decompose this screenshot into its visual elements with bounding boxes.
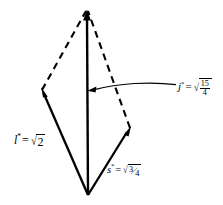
vector-diagram-figure: l*=√2 s*=√3⁄4 j*=√154	[0, 0, 223, 205]
s-denominator: 4	[135, 169, 139, 178]
j-numerator: 15	[200, 80, 210, 88]
s-radical: √3⁄4	[122, 164, 141, 177]
j-denominator: 4	[200, 88, 210, 97]
s-vector-arrowhead	[124, 126, 131, 137]
radical-sign-icon: √	[194, 82, 199, 93]
radical-sign-icon: √	[123, 165, 128, 176]
j-radicand: 154	[199, 78, 212, 98]
s-fraction: 3⁄4	[129, 166, 139, 176]
s-radicand: 3⁄4	[128, 164, 141, 177]
l-star: *	[17, 132, 21, 141]
j-leader-curve	[95, 83, 177, 90]
s-vector-label: s*=√3⁄4	[107, 163, 141, 176]
s-star: *	[111, 162, 114, 169]
j-radical: √154	[193, 78, 212, 98]
l-vector-label: l*=√2	[14, 133, 45, 148]
j-star: *	[181, 80, 184, 87]
l-radical: √2	[30, 134, 46, 148]
l-equals: =	[22, 133, 29, 147]
j-leader-arrowhead	[88, 87, 97, 93]
radical-sign-icon: √	[31, 135, 36, 147]
s-equals: =	[115, 164, 121, 175]
j-vector-shaft	[87, 17, 88, 195]
l-vector-shaft	[44, 94, 88, 195]
s-parallel-edge	[42, 11, 86, 90]
j-equals: =	[185, 80, 191, 92]
j-leader-line	[88, 83, 176, 92]
l-vector-arrowhead	[41, 87, 48, 97]
j-fraction: 154	[200, 80, 210, 98]
l-parallel-edge	[88, 11, 130, 128]
l-radicand: 2	[36, 134, 45, 148]
j-vector-label: j*=√154	[178, 78, 212, 98]
